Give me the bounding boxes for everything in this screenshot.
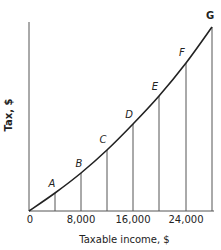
point-label-c: C (100, 134, 107, 145)
drop-lines (55, 27, 212, 211)
point-label-f: F (179, 47, 185, 58)
y-axis-title: Tax, $ (3, 99, 14, 132)
point-label-g: G (206, 10, 214, 21)
point-label-d: D (125, 109, 133, 120)
x-tick-origin: 0 (27, 214, 33, 225)
x-axis-title: Taxable income, $ (0, 234, 221, 245)
point-label-a: A (49, 178, 56, 189)
tax-chart (0, 0, 221, 250)
point-label-b: B (76, 158, 83, 169)
point-label-e: E (152, 81, 158, 92)
x-tick-24000: 24,000 (169, 214, 204, 225)
x-tick-16000: 16,000 (116, 214, 151, 225)
x-tick-8000: 8,000 (67, 214, 96, 225)
